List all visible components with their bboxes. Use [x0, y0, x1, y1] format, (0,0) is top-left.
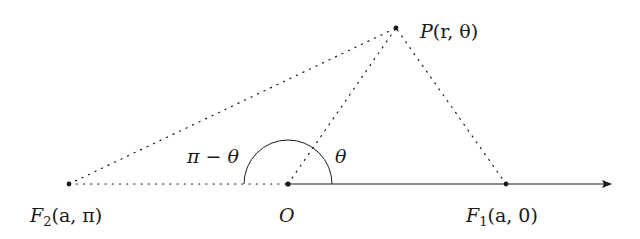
point-p: [394, 26, 399, 31]
label-theta: θ: [335, 145, 347, 167]
label-o: O: [279, 204, 295, 226]
label-f2: F2(a, π): [29, 204, 102, 229]
angle-arc: [244, 140, 332, 184]
dotted-segment-f1-p: [396, 28, 506, 184]
point-f2: [67, 182, 72, 187]
label-p: P(r, θ): [419, 20, 478, 42]
label-f1: F1(a, 0): [465, 204, 538, 229]
polar-foci-diagram: P(r, θ) θ π − θ O F2(a, π) F1(a, 0): [0, 0, 640, 239]
label-pi-minus-theta: π − θ: [186, 145, 239, 167]
point-f1: [504, 182, 509, 187]
point-o: [285, 181, 290, 186]
